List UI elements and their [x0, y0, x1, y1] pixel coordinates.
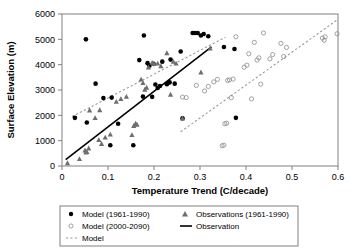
y-tick-label: 2000: [35, 111, 55, 121]
legend-label: Model (2000-2090): [82, 222, 150, 231]
data-point-model-1961: [160, 59, 165, 64]
x-tick-label: 0.1: [102, 172, 115, 182]
x-tick-label: 0.2: [148, 172, 161, 182]
axes-group: 00.10.20.30.40.50.6010002000300040005000…: [35, 9, 344, 182]
legend-label: Observations (1961-1990): [196, 210, 289, 219]
y-tick-label: 3000: [35, 85, 55, 95]
data-point-model-1961: [232, 47, 237, 52]
data-point-model-1961: [234, 116, 239, 121]
data-point-model-1961: [101, 96, 106, 101]
data-point-model-1961: [167, 80, 172, 85]
x-tick-label: 0.5: [286, 172, 299, 182]
y-tick-label: 6000: [35, 9, 55, 19]
x-axis-title: Temperature Trend (C/decade): [132, 185, 269, 196]
y-tick-label: 4000: [35, 60, 55, 70]
scatter-chart: 00.10.20.30.40.50.6010002000300040005000…: [0, 0, 357, 252]
data-point-model-1961: [108, 143, 113, 148]
data-point-model-1961: [142, 33, 147, 38]
x-tick-label: 0.4: [240, 172, 253, 182]
figure-container: 00.10.20.30.40.50.6010002000300040005000…: [0, 0, 357, 252]
data-point-model-1961: [201, 32, 206, 37]
x-tick-label: 0.6: [332, 172, 345, 182]
data-point-model-1961: [137, 58, 142, 63]
legend-marker-filled-circle-icon: [69, 212, 73, 216]
legend-label: Model: [82, 234, 104, 243]
data-point-model-1961: [158, 84, 163, 89]
data-point-model-1961: [116, 121, 121, 126]
data-point-model-1961: [206, 34, 211, 39]
data-point-model-1961: [178, 49, 183, 54]
y-axis-title: Surface Elevation (m): [5, 41, 16, 138]
y-tick-label: 0: [50, 161, 55, 171]
data-point-model-1961: [73, 116, 78, 121]
x-tick-label: 0.3: [194, 172, 207, 182]
legend-label: Observation: [196, 222, 239, 231]
y-tick-label: 1000: [35, 136, 55, 146]
x-tick-label: 0: [59, 172, 64, 182]
legend-label: Model (1961-1990): [82, 210, 150, 219]
data-point-model-1961: [109, 95, 114, 100]
data-point-model-1961: [141, 94, 146, 99]
data-point-model-1961: [150, 95, 155, 100]
data-point-model-1961: [85, 120, 90, 125]
y-tick-label: 5000: [35, 35, 55, 45]
data-point-model-1961: [84, 37, 89, 42]
data-point-model-1961: [172, 81, 177, 86]
data-point-model-1961: [131, 143, 136, 148]
data-point-model-1961: [93, 81, 98, 86]
data-point-model-1961: [222, 45, 227, 50]
chart-legend: Model (1961-1990)Model (2000-2090)ModelO…: [60, 206, 298, 246]
